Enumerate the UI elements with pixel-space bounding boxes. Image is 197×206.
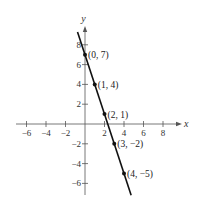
axes: xy [16, 13, 189, 195]
point-label: (3, −2) [117, 139, 143, 150]
data-point [93, 82, 97, 86]
data-point [122, 172, 126, 176]
point-label: (0, 7) [88, 50, 109, 61]
point-label: (4, −5) [127, 169, 153, 180]
y-axis-label: y [80, 13, 86, 24]
y-tick-label: −2 [71, 139, 81, 149]
x-axis-arrow-icon [176, 122, 182, 126]
x-tick-label: 6 [141, 128, 146, 138]
x-tick-label: −6 [22, 128, 32, 138]
y-tick-label: 6 [77, 60, 82, 70]
y-tick-label: 2 [77, 99, 82, 109]
y-tick-label: −6 [71, 178, 81, 188]
x-axis-label: x [183, 118, 189, 129]
x-tick-label: −4 [41, 128, 51, 138]
data-point [83, 53, 87, 57]
y-tick-label: 4 [77, 79, 82, 89]
x-tick-label: 4 [122, 128, 127, 138]
data-points: (0, 7)(1, 4)(2, 1)(3, −2)(4, −5) [83, 50, 153, 180]
y-axis-arrow-icon [83, 26, 87, 32]
x-tick-label: −2 [61, 128, 71, 138]
data-point [103, 112, 107, 116]
line-chart: xy −6−4−22468−6−4−22468 (0, 7)(1, 4)(2, … [0, 0, 197, 206]
data-point [112, 142, 116, 146]
x-tick-label: 2 [102, 128, 107, 138]
ticks: −6−4−22468−6−4−22468 [22, 40, 166, 189]
y-tick-label: −4 [71, 159, 81, 169]
point-label: (2, 1) [108, 110, 129, 121]
x-tick-label: 8 [161, 128, 166, 138]
point-label: (1, 4) [98, 80, 119, 91]
